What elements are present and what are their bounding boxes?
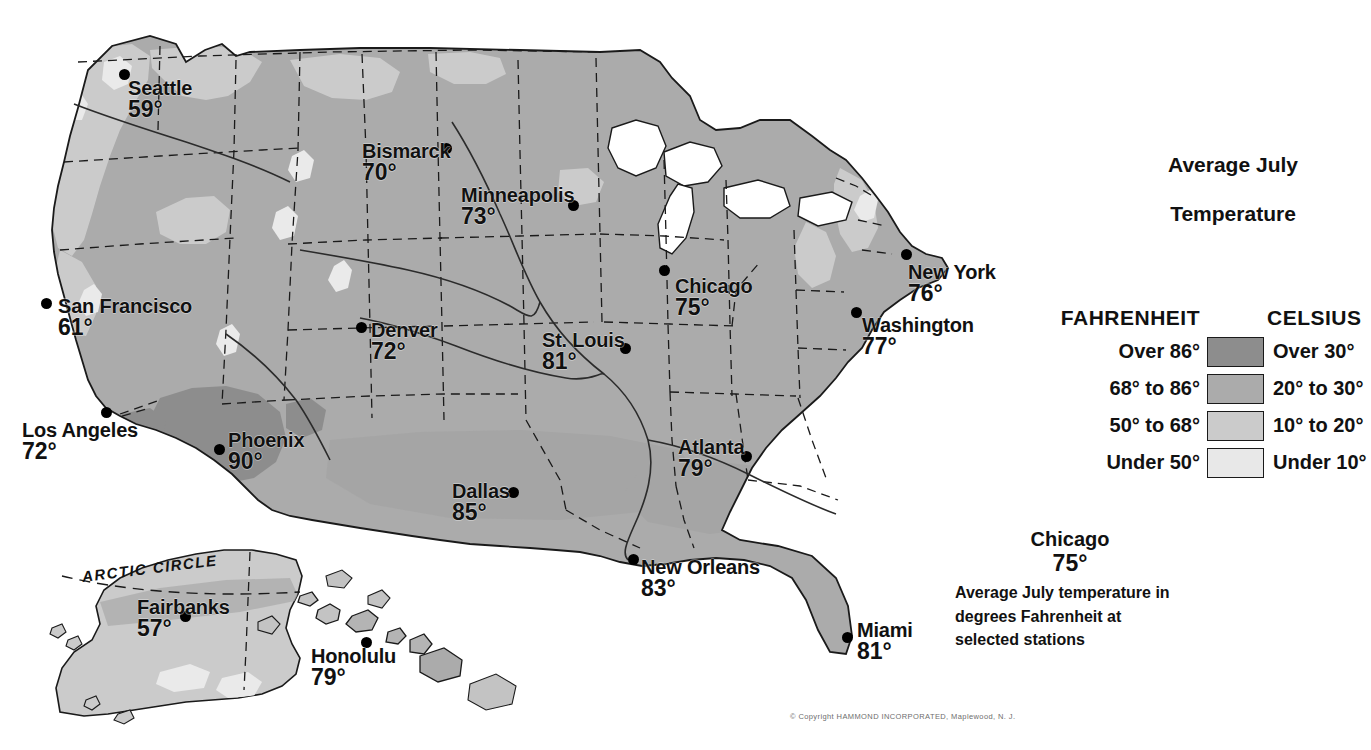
city-temperature: 59°: [128, 98, 192, 121]
city-label: New Orleans83°: [641, 557, 760, 600]
legend-header-fahrenheit: FAHRENHEIT: [1030, 306, 1204, 330]
city-temperature: 75°: [675, 296, 753, 319]
city-temperature: 70°: [362, 161, 450, 184]
city-label: Denver72°: [371, 320, 438, 363]
city-name: Bismarck: [362, 141, 450, 161]
caption-city: Chicago: [955, 528, 1185, 550]
city-label: Seattle59°: [128, 78, 192, 121]
legend-fahrenheit-label: Under 50°: [1030, 451, 1207, 474]
city-dot: [356, 322, 367, 333]
legend-fahrenheit-label: 50° to 68°: [1030, 414, 1207, 437]
city-name: Los Angeles: [22, 420, 138, 440]
caption-temp: 75°: [955, 550, 1185, 576]
city-name: Chicago: [675, 276, 753, 296]
city-label: Miami81°: [857, 620, 913, 663]
city-label: Fairbanks57°: [137, 597, 230, 640]
city-temperature: 90°: [228, 450, 304, 473]
city-temperature: 72°: [22, 440, 138, 463]
city-name: New York: [908, 262, 996, 282]
city-label: Honolulu79°: [311, 646, 396, 689]
legend-fahrenheit-label: Over 86°: [1030, 340, 1207, 363]
city-label: Minneapolis73°: [461, 185, 574, 228]
city-temperature: 79°: [678, 457, 744, 480]
legend-header-celsius: CELSIUS: [1266, 306, 1371, 330]
city-temperature: 85°: [452, 501, 510, 524]
city-temperature: 72°: [371, 340, 438, 363]
city-name: Minneapolis: [461, 185, 574, 205]
city-label: Los Angeles72°: [22, 420, 138, 463]
city-temperature: 77°: [862, 335, 974, 358]
legend-color-swatch: [1207, 411, 1264, 441]
city-temperature: 79°: [311, 666, 396, 689]
city-label: Dallas85°: [452, 481, 510, 524]
city-name: Atlanta: [678, 437, 744, 457]
city-temperature: 83°: [641, 577, 760, 600]
temperature-legend: FAHRENHEIT CELSIUS Over 86°Over 30°68° t…: [1030, 306, 1371, 481]
city-name: Washington: [862, 315, 974, 335]
map-title: Average July Temperature: [1118, 128, 1348, 226]
city-temperature: 61°: [58, 316, 192, 339]
map-title-line1: Average July: [1168, 153, 1298, 176]
city-dot: [851, 307, 862, 318]
city-name: St. Louis: [542, 330, 625, 350]
legend-celsius-label: Over 30°: [1264, 340, 1371, 363]
city-name: Denver: [371, 320, 438, 340]
city-name: San Francisco: [58, 296, 192, 316]
city-name: Fairbanks: [137, 597, 230, 617]
city-name: Honolulu: [311, 646, 396, 666]
city-name: New Orleans: [641, 557, 760, 577]
legend-color-swatch: [1207, 337, 1264, 367]
city-label: Atlanta79°: [678, 437, 744, 480]
legend-celsius-label: Under 10°: [1264, 451, 1371, 474]
legend-row: 50° to 68°10° to 20°: [1030, 407, 1371, 444]
legend-fahrenheit-label: 68° to 86°: [1030, 377, 1207, 400]
city-label: Bismarck70°: [362, 141, 450, 184]
city-name: Seattle: [128, 78, 192, 98]
legend-color-swatch: [1207, 374, 1264, 404]
city-temperature: 81°: [542, 350, 625, 373]
legend-row: 68° to 86°20° to 30°: [1030, 370, 1371, 407]
city-name: Phoenix: [228, 430, 304, 450]
city-temperature: 73°: [461, 205, 574, 228]
city-label: New York76°: [908, 262, 996, 305]
city-dot: [842, 632, 853, 643]
legend-color-swatch: [1207, 448, 1264, 478]
legend-row: Under 50°Under 10°: [1030, 444, 1371, 481]
city-name: Dallas: [452, 481, 510, 501]
caption-description: Average July temperature in degrees Fahr…: [955, 581, 1185, 651]
city-label: Phoenix90°: [228, 430, 304, 473]
city-dot: [628, 554, 639, 565]
map-title-line2: Temperature: [1170, 202, 1296, 225]
copyright-notice: © Copyright HAMMOND INCORPORATED, Maplew…: [790, 712, 1015, 721]
city-dot: [659, 265, 670, 276]
city-temperature: 81°: [857, 640, 913, 663]
legend-celsius-label: 20° to 30°: [1264, 377, 1371, 400]
city-name: Miami: [857, 620, 913, 640]
sample-station-caption: Chicago 75° Average July temperature in …: [955, 528, 1185, 651]
legend-celsius-label: 10° to 20°: [1264, 414, 1371, 437]
city-label: Washington77°: [862, 315, 974, 358]
city-label: St. Louis81°: [542, 330, 625, 373]
legend-header-row: FAHRENHEIT CELSIUS: [1030, 306, 1371, 330]
legend-row: Over 86°Over 30°: [1030, 333, 1371, 370]
city-label: Chicago75°: [675, 276, 753, 319]
city-temperature: 76°: [908, 282, 996, 305]
city-dot: [901, 249, 912, 260]
city-dot: [101, 407, 112, 418]
legend-rows: Over 86°Over 30°68° to 86°20° to 30°50° …: [1030, 333, 1371, 481]
city-dot: [214, 444, 225, 455]
city-label: San Francisco61°: [58, 296, 192, 339]
city-temperature: 57°: [137, 617, 230, 640]
city-dot: [41, 298, 52, 309]
